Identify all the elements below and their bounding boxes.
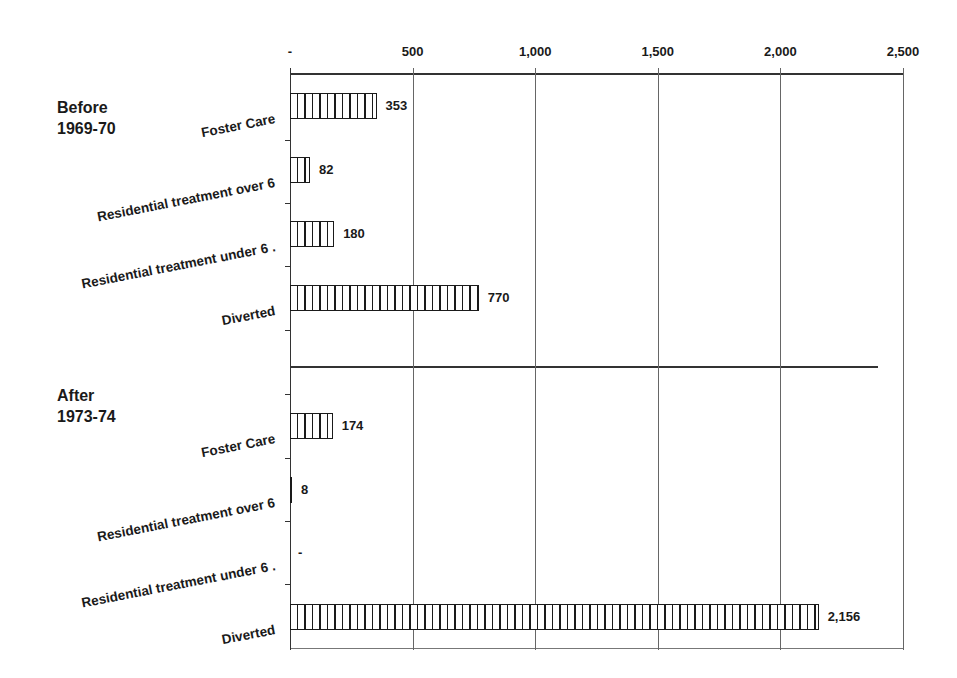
- y-tick: [285, 458, 290, 459]
- group-label: Before 1969-70: [57, 97, 116, 139]
- x-tick-label: 1,000: [519, 44, 552, 59]
- bar: [290, 413, 333, 439]
- x-tick-label: 2,000: [764, 44, 797, 59]
- gridline: [658, 68, 659, 650]
- category-label: Residential treatment over 6: [96, 495, 276, 544]
- bar: [290, 93, 377, 119]
- value-label: 82: [319, 162, 333, 177]
- value-label: 180: [343, 226, 365, 241]
- bar: [290, 221, 334, 247]
- value-label: -: [298, 545, 302, 560]
- category-label: Residential treatment under 6 .: [80, 239, 277, 291]
- category-label: Residential treatment over 6: [96, 175, 276, 224]
- group-separator: [290, 366, 878, 368]
- x-tick-label: 1,500: [642, 44, 675, 59]
- gridline: [535, 68, 536, 650]
- gridline: [413, 68, 414, 650]
- bar: [290, 477, 292, 503]
- value-label: 353: [386, 98, 408, 113]
- x-axis-top: [290, 73, 903, 75]
- category-label: Foster Care: [200, 111, 277, 140]
- category-label: Diverted: [221, 622, 277, 647]
- category-label: Residential treatment under 6 .: [80, 558, 277, 610]
- group-label: After 1973-74: [57, 385, 116, 427]
- y-tick: [285, 521, 290, 522]
- horizontal-bar-chart: -5001,0001,5002,0002,500 Before 1969-70F…: [0, 0, 957, 678]
- gridline: [903, 68, 904, 650]
- gridline: [780, 68, 781, 650]
- x-tick-label: 2,500: [887, 44, 920, 59]
- y-tick: [285, 203, 290, 204]
- bar: [290, 285, 479, 311]
- y-tick: [285, 266, 290, 267]
- value-label: 8: [301, 482, 308, 497]
- category-label: Diverted: [221, 303, 277, 328]
- x-axis-bottom: [290, 648, 903, 649]
- value-label: 174: [342, 418, 364, 433]
- y-tick: [285, 584, 290, 585]
- x-tick-label: 500: [402, 44, 424, 59]
- category-label: Foster Care: [200, 431, 277, 460]
- y-axis-line: [290, 68, 291, 650]
- y-tick: [285, 330, 290, 331]
- value-label: 770: [488, 290, 510, 305]
- x-tick-label: -: [288, 44, 292, 59]
- y-tick: [285, 140, 290, 141]
- bar: [290, 604, 819, 630]
- y-tick: [285, 394, 290, 395]
- bar: [290, 157, 310, 183]
- value-label: 2,156: [828, 609, 861, 624]
